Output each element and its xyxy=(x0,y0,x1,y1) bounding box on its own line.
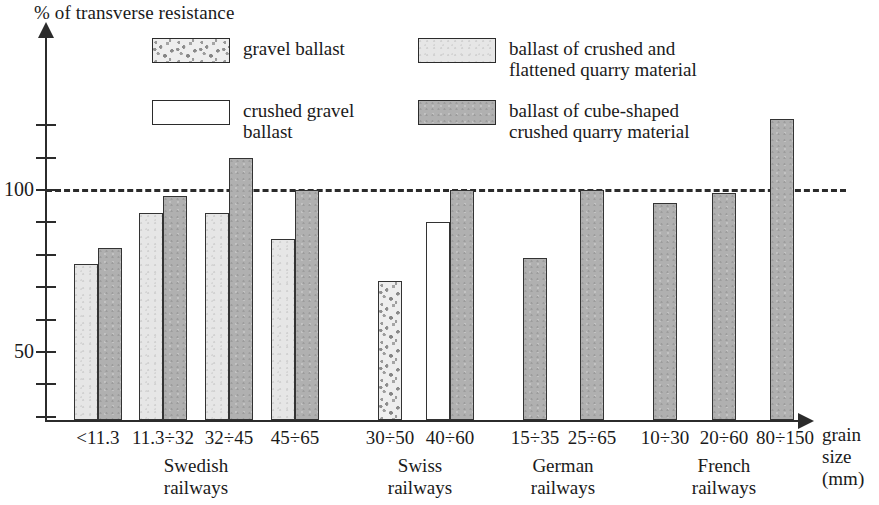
group-label-line2: railways xyxy=(126,477,266,499)
x-axis-group-label: Swedishrailways xyxy=(126,455,266,499)
x-axis-line xyxy=(45,420,800,422)
bar-chart: % of transverse resistance 10050 <11.311… xyxy=(0,0,879,505)
x-axis-title: grain size (mm) xyxy=(822,424,878,490)
group-label-line1: Swedish xyxy=(126,455,266,477)
y-axis-tick xyxy=(36,319,56,321)
legend-swatch-dark xyxy=(418,100,496,125)
bar xyxy=(426,222,450,420)
y-axis-tick xyxy=(36,124,56,126)
bar xyxy=(74,264,98,420)
group-label-line1: German xyxy=(493,455,633,477)
bar xyxy=(523,258,547,420)
legend-item: ballast of cube-shaped crushed quarry ma… xyxy=(418,100,689,142)
y-axis-arrow-icon xyxy=(38,22,54,38)
bar xyxy=(98,248,122,420)
group-label-line2: railways xyxy=(654,477,794,499)
group-label-line1: Swiss xyxy=(350,455,490,477)
y-axis-label: 50 xyxy=(0,341,34,361)
x-axis-group-label: Frenchrailways xyxy=(654,455,794,499)
bar xyxy=(229,158,253,420)
legend-label: ballast of cube-shaped crushed quarry ma… xyxy=(509,100,689,142)
y-axis-line xyxy=(45,34,47,422)
legend-label: crushed gravel ballast xyxy=(243,100,354,142)
plot-area: 10050 <11.311.3÷3232÷4545÷6530÷5040÷6015… xyxy=(0,0,879,505)
reference-line-100 xyxy=(46,189,846,192)
y-axis-tick xyxy=(36,157,56,159)
bar xyxy=(163,196,187,420)
bar xyxy=(712,193,736,420)
y-axis-tick xyxy=(36,351,56,353)
x-axis-group-label: Germanrailways xyxy=(493,455,633,499)
x-axis-group-label: Swissrailways xyxy=(350,455,490,499)
bar xyxy=(378,281,402,420)
group-label-line1: French xyxy=(654,455,794,477)
y-axis-tick xyxy=(36,416,56,418)
group-label-line2: railways xyxy=(493,477,633,499)
legend-swatch-light xyxy=(418,38,496,63)
bar xyxy=(205,213,229,420)
legend-item: gravel ballast xyxy=(152,38,345,63)
legend-item: crushed gravel ballast xyxy=(152,100,354,142)
bar xyxy=(450,190,474,420)
bar xyxy=(770,119,794,420)
y-axis-tick xyxy=(36,286,56,288)
legend-label: ballast of crushed and flattened quarry … xyxy=(509,38,697,80)
legend-swatch-gravel xyxy=(152,38,230,63)
y-axis-tick xyxy=(36,254,56,256)
bar xyxy=(653,203,677,420)
legend-label: gravel ballast xyxy=(243,38,345,59)
legend-swatch-white xyxy=(152,100,230,125)
y-axis-label: 100 xyxy=(0,179,34,199)
group-label-line2: railways xyxy=(350,477,490,499)
bar xyxy=(580,190,604,420)
bar xyxy=(295,190,319,420)
legend-item: ballast of crushed and flattened quarry … xyxy=(418,38,697,80)
y-axis-tick xyxy=(36,221,56,223)
y-axis-tick xyxy=(36,383,56,385)
bar xyxy=(139,213,163,420)
bar xyxy=(271,239,295,420)
